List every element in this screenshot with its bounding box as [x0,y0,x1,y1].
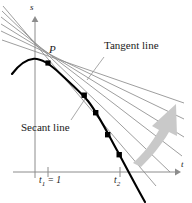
curve-point-marker [93,110,98,115]
figure-canvas [0,0,192,203]
curve-point-marker [117,152,122,157]
t-axis-label: t [181,160,184,169]
tick-label-t1: t1 = 1 [39,176,61,188]
curve-point-marker [105,132,110,137]
point-p-marker [45,60,50,65]
secant-line-4 [2,11,170,172]
s-axis-label: s [30,3,34,12]
secant-line-annotation: Secant line [21,122,70,133]
s-axis-arrowhead [32,16,39,22]
secant-line-3 [1,17,182,156]
curve-point-marker [82,93,87,98]
t-axis-arrowhead [175,169,181,176]
point-p-label: P [49,44,56,55]
secant-line-5 [3,6,156,186]
tick-label-t2: t2 [114,176,120,188]
tangent-line-annotation: Tangent line [104,40,159,51]
secant-fan-group [1,6,184,186]
tangent-secant-figure: s t P Tangent line Secant line t1 = 1 t2 [0,0,192,203]
secant-leader-line [71,99,85,120]
